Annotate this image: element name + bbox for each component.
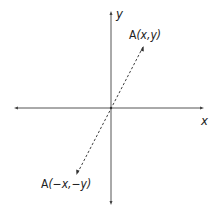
axes-graphic: [0, 0, 218, 215]
coordinate-diagram: y x A(x,y) A(−x,−y): [0, 0, 218, 215]
point-a-reflected-label: A(−x,−y): [41, 178, 91, 190]
x-axis-label: x: [201, 115, 208, 127]
x-axis-left-arrow-icon: [14, 107, 18, 110]
point-a-reflected-arrow-icon: [76, 170, 79, 176]
point-a-coords: (x,y): [136, 28, 161, 42]
x-axis: [14, 107, 204, 110]
point-a-arrow-icon: [141, 46, 144, 52]
point-a-label: A(x,y): [129, 29, 161, 41]
origin-point: [110, 107, 112, 109]
y-axis-bottom-arrow-icon: [110, 201, 113, 205]
reflection-segment: [76, 46, 144, 175]
x-axis-right-arrow-icon: [200, 107, 204, 110]
point-a-reflected-coords: (−x,−y): [48, 177, 91, 191]
y-axis-label: y: [116, 8, 123, 20]
y-axis-top-arrow-icon: [110, 11, 113, 15]
